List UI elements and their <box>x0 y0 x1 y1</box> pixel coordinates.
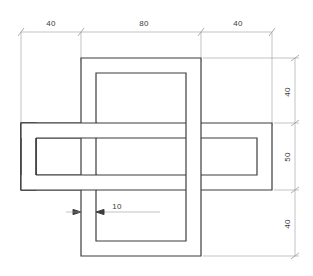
dim-right-40-top: 40 <box>283 87 292 97</box>
horizontal-top-flange-over <box>21 123 97 138</box>
dim-top-40-right: 40 <box>233 19 243 28</box>
vertical-frame <box>81 58 201 256</box>
dim-top-40-left: 40 <box>46 19 56 28</box>
dim-top-80: 80 <box>139 19 149 28</box>
horizontal-bottom-flange-over <box>21 175 97 190</box>
dim-thickness-10: 10 <box>112 202 122 211</box>
dim-right-50-mid: 50 <box>283 152 292 162</box>
leader-arrow-right <box>96 209 104 214</box>
technical-drawing-svg: 40 80 40 40 50 40 10 <box>0 0 313 276</box>
drawing-canvas: 40 80 40 40 50 40 10 <box>0 0 313 276</box>
dim-right-40-bottom: 40 <box>283 219 292 229</box>
vertical-frame-body <box>81 58 201 256</box>
